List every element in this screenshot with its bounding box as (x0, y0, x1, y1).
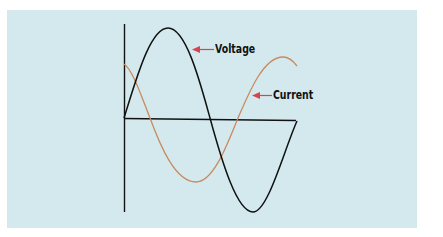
voltage-arrow-icon (192, 46, 214, 53)
sine-wave-diagram (0, 0, 443, 237)
current-arrow-icon (252, 92, 272, 99)
voltage-label: Voltage (215, 42, 255, 56)
current-label: Current (273, 88, 313, 102)
